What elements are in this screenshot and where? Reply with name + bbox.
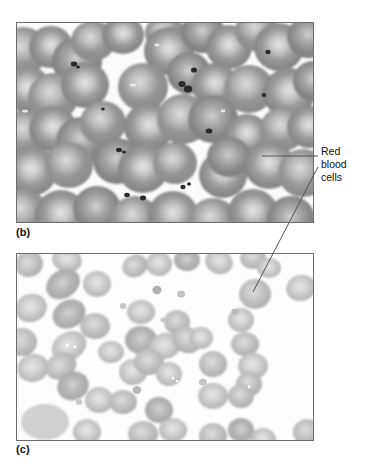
annotation-line-1: Red bbox=[321, 145, 347, 158]
annotation-line-3: cells bbox=[321, 171, 347, 184]
micrograph-image-c bbox=[17, 254, 313, 440]
micrograph-panel-c bbox=[16, 253, 314, 441]
annotation-red-blood-cells: Red blood cells bbox=[321, 145, 347, 184]
panel-caption-b: (b) bbox=[16, 226, 30, 238]
micrograph-panel-b bbox=[16, 22, 314, 223]
figure-container: (b) bbox=[0, 0, 365, 468]
annotation-line-2: blood bbox=[321, 158, 347, 171]
micrograph-image-b bbox=[17, 23, 313, 222]
panel-caption-c: (c) bbox=[16, 443, 30, 455]
